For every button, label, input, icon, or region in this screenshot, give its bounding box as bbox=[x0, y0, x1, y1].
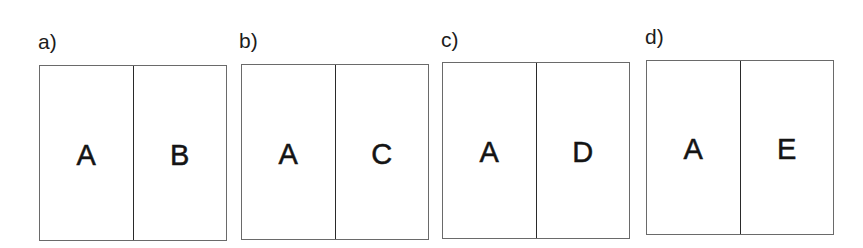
cell-b-left: A bbox=[242, 65, 336, 239]
cell-d-right: E bbox=[741, 61, 834, 234]
panel-label-a: a) bbox=[38, 31, 57, 52]
cell-b-right: C bbox=[336, 65, 429, 239]
cell-letter: B bbox=[170, 141, 189, 170]
panel-label-d: d) bbox=[645, 26, 664, 47]
cell-letter: D bbox=[572, 138, 593, 167]
panel-box-a: A B bbox=[39, 65, 227, 241]
cell-letter: A bbox=[480, 138, 499, 167]
cell-letter: A bbox=[279, 140, 298, 169]
cell-a-left: A bbox=[40, 66, 134, 240]
panel-label-c: c) bbox=[441, 29, 459, 50]
cell-letter: A bbox=[77, 141, 96, 170]
cell-letter: C bbox=[371, 140, 392, 169]
panel-box-b: A C bbox=[241, 64, 429, 240]
cell-d-left: A bbox=[647, 61, 741, 234]
panel-label-b: b) bbox=[239, 30, 258, 51]
panel-box-d: A E bbox=[646, 60, 834, 235]
cell-a-right: B bbox=[134, 66, 227, 240]
cell-c-left: A bbox=[443, 63, 537, 238]
panel-box-c: A D bbox=[442, 62, 630, 239]
cell-c-right: D bbox=[537, 63, 630, 238]
cell-letter: A bbox=[684, 135, 703, 164]
cell-letter: E bbox=[777, 135, 796, 164]
